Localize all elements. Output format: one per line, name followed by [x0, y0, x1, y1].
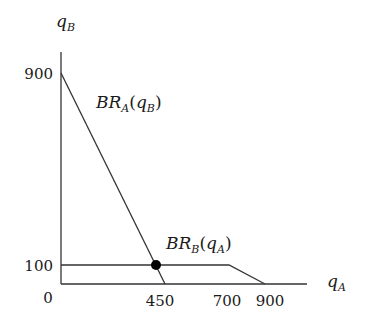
best-response-diagram: qB qA 900 100 0 450 700 900 BRA(qB) BRB(… — [0, 0, 370, 334]
best-response-a-label: BRA(qB) — [95, 92, 162, 115]
x-tick-450: 450 — [146, 292, 175, 310]
x-tick-700: 700 — [213, 292, 242, 310]
x-tick-900: 900 — [256, 292, 285, 310]
y-tick-100: 100 — [24, 257, 53, 275]
best-response-b-label: BRB(qA) — [165, 233, 232, 256]
origin-label: 0 — [43, 289, 53, 307]
x-axis-label: qA — [327, 271, 346, 294]
equilibrium-point — [151, 260, 161, 270]
y-tick-900: 900 — [24, 65, 53, 83]
y-axis-label: qB — [56, 11, 75, 34]
